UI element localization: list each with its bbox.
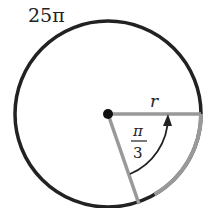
angle-denominator: 3 <box>133 144 143 162</box>
radius-label: r <box>150 91 159 111</box>
center-point <box>103 109 113 119</box>
angle-numerator: π <box>132 122 144 140</box>
arrowhead-icon <box>163 114 172 126</box>
circumference-label: 25π <box>28 4 65 26</box>
circle-diagram: 25π r π 3 <box>0 0 207 208</box>
sector-arc <box>155 114 202 195</box>
